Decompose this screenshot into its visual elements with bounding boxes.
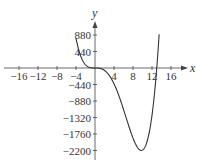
x-tick-label: −8 [51, 70, 63, 82]
x-tick-label: 16 [166, 70, 178, 82]
x-axis-arrow-icon [181, 66, 188, 71]
y-tick-label: −1320 [63, 112, 92, 124]
y-axis [93, 21, 98, 160]
y-tick-label: −440 [68, 79, 91, 91]
chart-canvas: x y −16−12−8−4481216 880440−440−880−1320… [0, 0, 197, 165]
y-tick-label: −880 [68, 95, 91, 107]
y-tick-label: 440 [75, 46, 92, 58]
y-axis-label: y [91, 6, 98, 20]
y-axis-arrow-icon [93, 21, 98, 28]
y-tick-label: −2200 [63, 145, 92, 157]
x-axis-label: x [189, 61, 196, 75]
x-tick-label: −12 [29, 70, 46, 82]
x-tick-label: 8 [130, 70, 136, 82]
y-ticks: 880440−440−880−1320−1760−2200 [63, 29, 97, 157]
y-tick-label: −1760 [63, 128, 92, 140]
x-tick-label: −16 [10, 70, 28, 82]
y-tick-label: 880 [75, 29, 92, 41]
